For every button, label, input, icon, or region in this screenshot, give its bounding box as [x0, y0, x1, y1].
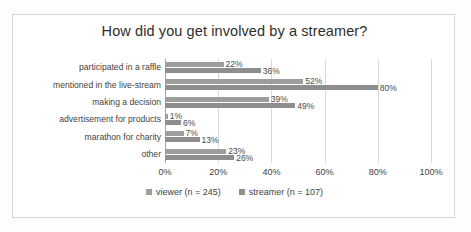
bar-value-label: 36%: [263, 67, 280, 76]
bar-viewer: [165, 131, 184, 136]
bar-streamer: [165, 68, 261, 73]
chart-bar-group: 39%49%: [165, 94, 431, 111]
bar-streamer: [165, 120, 181, 125]
bar-viewer: [165, 97, 269, 102]
chart-title: How did you get involved by a streamer?: [13, 23, 456, 39]
legend-item: viewer (n = 245): [146, 187, 221, 197]
value-axis-ticks: 0%20%40%60%80%100%: [165, 165, 431, 179]
category-label: marathon for charity: [21, 133, 161, 142]
bar-value-label: 80%: [380, 84, 397, 93]
chart-bar-group: 23%26%: [165, 146, 431, 163]
chart-bar-group: 52%80%: [165, 76, 431, 93]
bar-viewer: [165, 114, 168, 119]
legend-label: viewer (n = 245): [156, 187, 221, 197]
chart-bar-group: 1%6%: [165, 111, 431, 128]
x-tick-label: 80%: [369, 167, 387, 177]
legend-item: streamer (n = 107): [239, 187, 323, 197]
bar-streamer: [165, 103, 295, 108]
legend-swatch-icon: [146, 189, 152, 195]
chart-legend: viewer (n = 245)streamer (n = 107): [13, 187, 456, 197]
chart-bar-group: 7%13%: [165, 128, 431, 145]
gridline: [431, 59, 432, 163]
x-tick-label: 60%: [316, 167, 334, 177]
bar-value-label: 13%: [202, 136, 219, 145]
category-label: participated in a raffle: [21, 63, 161, 72]
category-label: advertisement for products: [21, 115, 161, 124]
bar-value-label: 49%: [297, 102, 314, 111]
x-tick-label: 40%: [262, 167, 280, 177]
category-axis-labels: participated in a rafflementioned in the…: [21, 59, 161, 163]
x-tick-label: 20%: [209, 167, 227, 177]
x-tick-label: 0%: [158, 167, 171, 177]
x-tick-label: 100%: [419, 167, 442, 177]
legend-label: streamer (n = 107): [249, 187, 323, 197]
bar-streamer: [165, 137, 200, 142]
bar-viewer: [165, 62, 224, 67]
plot-area: 22%36%52%80%39%49%1%6%7%13%23%26%: [165, 59, 431, 163]
bar-viewer: [165, 149, 226, 154]
chart-card: How did you get involved by a streamer? …: [12, 14, 455, 218]
category-label: making a decision: [21, 98, 161, 107]
bar-value-label: 6%: [183, 119, 195, 128]
category-label: mentioned in the live-stream: [21, 81, 161, 90]
chart-bar-group: 22%36%: [165, 59, 431, 76]
bar-viewer: [165, 79, 303, 84]
bar-value-label: 26%: [236, 154, 253, 163]
legend-swatch-icon: [239, 189, 245, 195]
bar-streamer: [165, 85, 378, 90]
bar-streamer: [165, 155, 234, 160]
category-label: other: [21, 150, 161, 159]
